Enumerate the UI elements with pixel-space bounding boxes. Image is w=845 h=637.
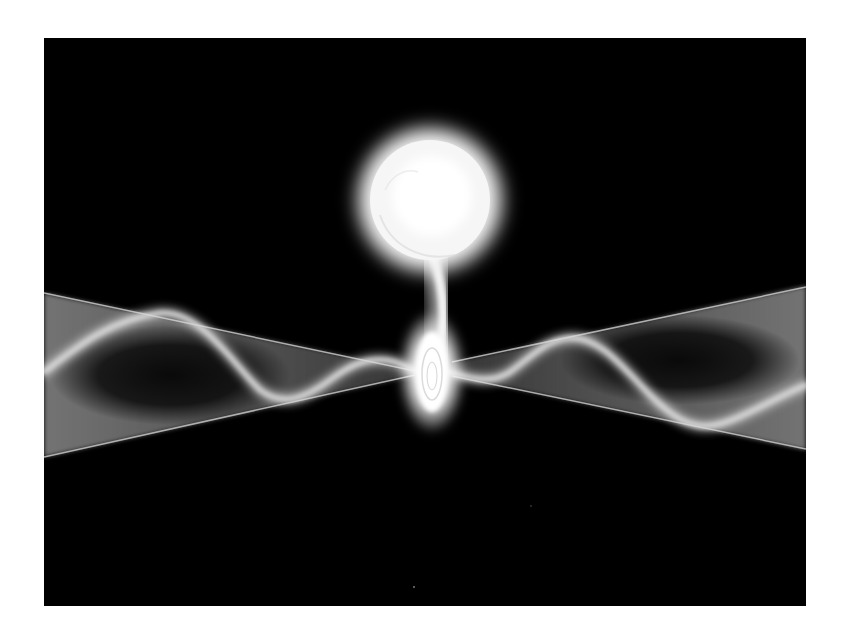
figure: [0, 0, 845, 637]
donor-star: [350, 120, 510, 280]
accretion-disk: [398, 310, 466, 434]
left-jet-cone: [44, 293, 420, 457]
illustration-canvas: [0, 0, 845, 637]
right-jet-cone: [448, 286, 806, 450]
speck: [530, 505, 532, 507]
speck: [413, 586, 415, 588]
